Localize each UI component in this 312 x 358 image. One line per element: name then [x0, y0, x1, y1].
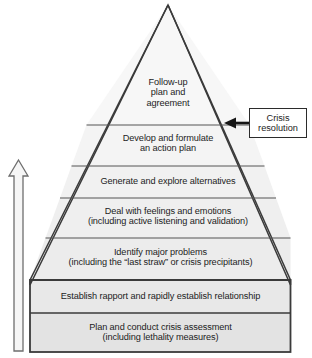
pyramid-tier-6-shape — [30, 280, 291, 313]
progress-arrow-up-icon — [9, 160, 28, 351]
crisis-resolution-callout: Crisis resolution — [249, 108, 307, 138]
pyramid-tier-5-shape — [30, 238, 291, 280]
diagram-canvas: Follow-up plan and agreement Develop and… — [0, 0, 312, 358]
pyramid-tier-7-shape — [30, 313, 291, 352]
pyramid-tier-1-shape — [87, 5, 250, 125]
pyramid-graphic — [0, 0, 312, 358]
pyramid-tier-4-shape — [46, 198, 291, 238]
pyramid-tier-3-shape — [60, 166, 276, 198]
